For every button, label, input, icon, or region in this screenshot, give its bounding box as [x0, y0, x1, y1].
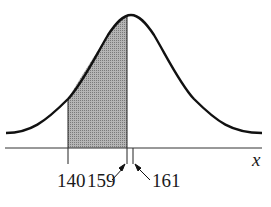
arrow-161	[135, 164, 150, 180]
x-axis-label: x	[251, 149, 261, 170]
tick-label-159: 159	[87, 170, 116, 191]
normal-curve-chart: 140 159 161 x	[0, 0, 271, 207]
tick-label-140: 140	[57, 170, 86, 191]
normal-curve	[6, 15, 262, 133]
shaded-area	[68, 15, 127, 148]
tick-label-161: 161	[152, 170, 181, 191]
